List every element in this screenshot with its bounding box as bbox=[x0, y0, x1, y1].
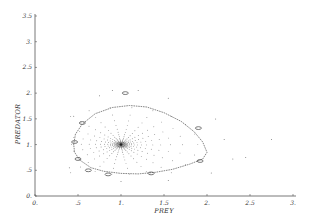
x-tick-label: 1.5 bbox=[159, 199, 169, 206]
phase-portrait-chart: 0..51.1.52.2.53. 0..51.1.52.2.53.3.5 PRE… bbox=[0, 0, 316, 224]
x-tick-label: 2. bbox=[203, 199, 210, 206]
y-tick-label: 3. bbox=[26, 38, 32, 45]
loop-marker bbox=[122, 92, 128, 95]
x-tick-label: 1. bbox=[118, 199, 124, 206]
x-tick-label: 3. bbox=[290, 199, 296, 206]
trajectory-dots bbox=[69, 90, 272, 182]
loop-marker bbox=[75, 158, 81, 161]
y-tick-label: .5 bbox=[26, 166, 32, 173]
loop-marker bbox=[197, 160, 203, 163]
y-tick-label: 2. bbox=[25, 89, 32, 96]
x-tick-label: 2.5 bbox=[244, 199, 255, 206]
y-axis-title: PREDATOR bbox=[14, 104, 22, 146]
loop-marker bbox=[85, 169, 91, 172]
loop-marker bbox=[72, 141, 78, 144]
x-tick-label: 0. bbox=[32, 199, 38, 206]
loop-marker bbox=[148, 172, 154, 175]
loop-markers bbox=[72, 92, 204, 176]
loop-marker bbox=[105, 173, 111, 176]
y-tick-label: 0. bbox=[26, 192, 32, 199]
loop-marker bbox=[195, 127, 201, 130]
y-tick-label: 3.5 bbox=[22, 12, 32, 19]
loop-marker bbox=[79, 122, 85, 125]
x-tick-label: .5 bbox=[75, 199, 81, 206]
y-tick-label: 1.5 bbox=[22, 115, 32, 122]
y-tick-label: 1. bbox=[26, 141, 32, 148]
outer-orbit bbox=[74, 106, 207, 174]
x-axis-title: PREY bbox=[153, 207, 174, 215]
y-tick-label: 2.5 bbox=[21, 63, 32, 70]
axes bbox=[35, 14, 296, 196]
